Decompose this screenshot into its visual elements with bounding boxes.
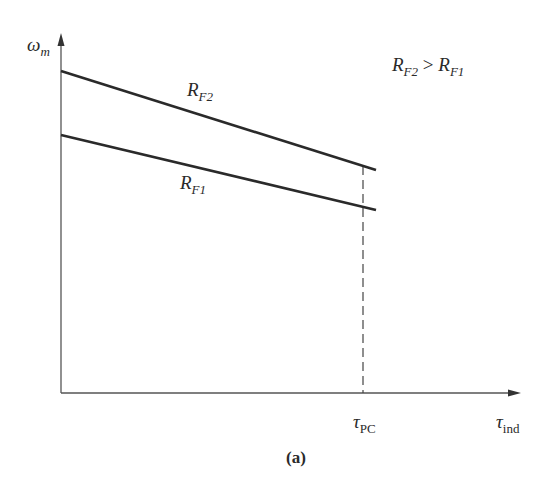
x-axis-symbol: τ bbox=[496, 411, 503, 432]
tau-pc-label: τPC bbox=[353, 412, 376, 435]
tau-pc-subscript: PC bbox=[360, 421, 376, 436]
annotation-lhs-sub: F2 bbox=[404, 64, 418, 79]
tau-pc-symbol: τ bbox=[353, 411, 360, 432]
annotation-lhs: R bbox=[392, 54, 404, 75]
resistance-comparison-annotation: RF2 > RF1 bbox=[392, 55, 464, 78]
curve-rf1-label-sub: F1 bbox=[192, 182, 206, 197]
y-axis-symbol: ω bbox=[27, 34, 40, 55]
annotation-operator: > bbox=[423, 54, 434, 75]
y-axis-label: ωm bbox=[27, 35, 50, 58]
plot-canvas bbox=[0, 0, 556, 488]
curve-rf2-label-main: R bbox=[187, 79, 199, 100]
curve-rf1-label: RF1 bbox=[180, 173, 206, 196]
curve-rf1 bbox=[61, 135, 376, 210]
torque-speed-figure: ωm RF2 > RF1 RF2 RF1 τPC τind (a) bbox=[0, 0, 556, 488]
y-axis-arrow-icon bbox=[58, 33, 65, 46]
curve-rf2-label: RF2 bbox=[187, 80, 213, 103]
curve-rf1-label-main: R bbox=[180, 172, 192, 193]
x-axis-arrow-icon bbox=[508, 390, 521, 397]
annotation-rhs: R bbox=[438, 54, 450, 75]
y-axis-subscript: m bbox=[40, 44, 49, 59]
annotation-rhs-sub: F1 bbox=[450, 64, 464, 79]
figure-caption: (a) bbox=[286, 448, 306, 468]
curve-rf2 bbox=[61, 71, 376, 170]
curve-rf2-label-sub: F2 bbox=[199, 89, 213, 104]
x-axis-label: τind bbox=[496, 412, 519, 435]
x-axis-subscript: ind bbox=[503, 421, 520, 436]
